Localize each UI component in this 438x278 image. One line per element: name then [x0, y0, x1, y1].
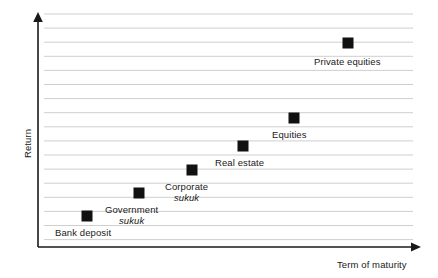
data-point-label-primary: Equities	[272, 129, 307, 140]
data-point-label: Equities	[272, 129, 307, 140]
x-axis-title: Term of maturity	[337, 259, 407, 270]
data-markers-group	[82, 38, 354, 222]
data-point-marker	[187, 165, 198, 176]
gridlines-group	[44, 14, 413, 240]
data-point-label: Corporatesukuk	[165, 181, 208, 203]
data-point-label: Private equities	[314, 56, 381, 67]
y-axis-title: Return	[22, 129, 33, 158]
data-point-label-secondary: sukuk	[165, 192, 208, 203]
data-point-label: Bank deposit	[55, 227, 111, 238]
data-point-label-primary: Real estate	[215, 157, 264, 168]
data-point-marker	[343, 38, 354, 49]
data-point-marker	[238, 141, 249, 152]
data-point-label-primary: Bank deposit	[55, 227, 111, 238]
data-point-marker	[289, 113, 300, 124]
data-point-label-primary: Private equities	[314, 56, 381, 67]
data-point-marker	[82, 211, 93, 222]
y-axis-arrowhead	[33, 12, 43, 22]
data-point-label-primary: Corporate	[165, 181, 208, 192]
risk-return-scatter-chart: Bank depositGovernmentsukukCorporatesuku…	[0, 0, 438, 278]
data-point-label-primary: Government	[105, 204, 158, 215]
data-point-marker	[134, 188, 145, 199]
x-axis-arrowhead	[411, 242, 421, 251]
data-point-label: Governmentsukuk	[105, 204, 158, 226]
data-point-label: Real estate	[215, 157, 264, 168]
data-point-label-secondary: sukuk	[105, 215, 158, 226]
